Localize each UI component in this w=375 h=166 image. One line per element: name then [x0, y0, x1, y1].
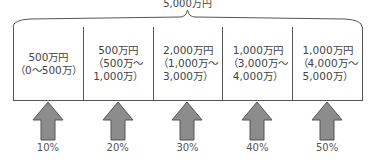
bracket-amount: 1,000万円 — [298, 44, 358, 57]
tax-rate-label: 30% — [176, 142, 198, 153]
bracket-range: 3,000万） — [158, 70, 218, 83]
bracket-amount: 2,000万円 — [158, 44, 218, 57]
up-arrow-icon — [102, 101, 134, 141]
tax-rate-label: 50% — [316, 142, 338, 153]
rate-column: 10% — [13, 101, 83, 166]
bracket-range: （1,000万～ — [158, 57, 218, 70]
rate-column: 40% — [222, 101, 292, 166]
tax-bracket-table: 500万円 （0～500万） 500万円 （500万～ 1,000万） 2,00… — [13, 27, 363, 101]
bracket-range: （3,000万～ — [228, 57, 288, 70]
tax-rate-label: 10% — [37, 142, 59, 153]
rate-column: 50% — [292, 101, 362, 166]
bracket-cell: 2,000万円 （1,000万～ 3,000万） — [154, 27, 224, 101]
up-arrow-icon — [311, 101, 343, 141]
bracket-range: 4,000万） — [228, 70, 288, 83]
tax-rate-label: 40% — [246, 142, 268, 153]
bracket-cell: 500万円 （500万～ 1,000万） — [84, 27, 154, 101]
bracket-amount: 1,000万円 — [228, 44, 288, 57]
bracket-amount: 500万円 — [93, 44, 143, 57]
bracket-cell: 1,000万円 （4,000万～ 5,000万） — [293, 27, 363, 101]
bracket-range: （4,000万～ — [298, 57, 358, 70]
tax-rate-label: 20% — [107, 142, 129, 153]
up-arrow-icon — [241, 101, 273, 141]
bracket-amount: 500万円 — [15, 51, 82, 64]
rate-column: 30% — [153, 101, 223, 166]
up-arrow-icon — [32, 101, 64, 141]
bracket-range: （500万～ — [93, 57, 143, 70]
rate-column: 20% — [83, 101, 153, 166]
bracket-range: 1,000万） — [93, 70, 143, 83]
bracket-cell: 1,000万円 （3,000万～ 4,000万） — [223, 27, 293, 101]
curly-brace-icon — [0, 0, 375, 30]
bracket-cell: 500万円 （0～500万） — [14, 27, 84, 101]
bracket-range: 5,000万） — [298, 70, 358, 83]
up-arrow-icon — [171, 101, 203, 141]
rate-arrows: 10% 20% 30% 40% 50% — [13, 101, 362, 166]
bracket-range: （0～500万） — [15, 64, 82, 77]
